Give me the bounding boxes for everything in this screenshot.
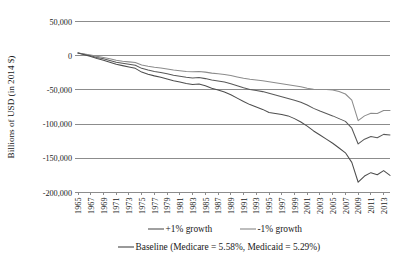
x-axis-tick-label: 1989 xyxy=(227,198,236,214)
legend-item-label: Baseline (Medicare = 5.58%, Medicaid = 5… xyxy=(136,242,321,253)
x-axis-tick-label: 1981 xyxy=(176,198,185,214)
x-axis-tick-label: 2001 xyxy=(303,198,312,214)
chart-legend: +1% growth-1% growthBaseline (Medicare =… xyxy=(118,224,320,253)
x-axis-tick-label: 1985 xyxy=(202,198,211,214)
y-axis-title: Billions of USD (in 2014 $) xyxy=(6,56,16,159)
axis-tickmarks-group xyxy=(75,22,384,196)
x-axis-tick-label: 1973 xyxy=(125,198,134,214)
x-axis-tick-label: 2009 xyxy=(354,198,363,214)
chart-figure: 50,0000-50,000-100,000-150,000-200,000 1… xyxy=(0,0,413,267)
x-axis-tick-label: 1967 xyxy=(87,198,96,214)
x-axis-tick-label: 1965 xyxy=(74,198,83,214)
y-axis-tick-label: -150,000 xyxy=(43,154,72,163)
x-axis-tick-label: 1975 xyxy=(138,198,147,214)
y-axis-tick-label: -50,000 xyxy=(47,86,72,95)
x-axis-tick-label: 2013 xyxy=(380,198,389,214)
x-axis-tick-label: 2007 xyxy=(342,198,351,214)
y-axis-tick-label: -100,000 xyxy=(43,120,72,129)
gridlines-group xyxy=(78,22,390,193)
y-axis-tick-labels: 50,0000-50,000-100,000-150,000-200,000 xyxy=(43,18,72,198)
x-axis-tick-labels: 1965196719691971197319751977197919811983… xyxy=(74,198,389,214)
x-axis-tick-label: 2005 xyxy=(329,198,338,214)
y-axis-tick-label: 50,000 xyxy=(49,18,72,27)
data-series-group xyxy=(78,53,390,182)
y-axis-tick-label: -200,000 xyxy=(43,189,72,198)
x-axis-tick-label: 1969 xyxy=(100,198,109,214)
x-axis-tick-label: 1977 xyxy=(151,198,160,214)
x-axis-tick-label: 1993 xyxy=(252,198,261,214)
x-axis-tick-label: 1997 xyxy=(278,198,287,214)
legend-item-label: +1% growth xyxy=(166,224,213,234)
x-axis-tick-label: 1995 xyxy=(265,198,274,214)
x-axis-tick-label: 1979 xyxy=(163,198,172,214)
x-axis-tick-label: 2011 xyxy=(367,198,376,214)
x-axis-tick-label: 1987 xyxy=(214,198,223,214)
legend-item-label: -1% growth xyxy=(258,224,303,234)
x-axis-tick-label: 1971 xyxy=(112,198,121,214)
x-axis-tick-label: 1999 xyxy=(291,198,300,214)
x-axis-tick-label: 2003 xyxy=(316,198,325,214)
x-axis-tick-label: 1983 xyxy=(189,198,198,214)
y-axis-tick-label: 0 xyxy=(68,52,72,61)
series-line xyxy=(78,53,390,182)
line-chart-plot: 50,0000-50,000-100,000-150,000-200,000 1… xyxy=(0,0,413,267)
x-axis-tick-label: 1991 xyxy=(240,198,249,214)
